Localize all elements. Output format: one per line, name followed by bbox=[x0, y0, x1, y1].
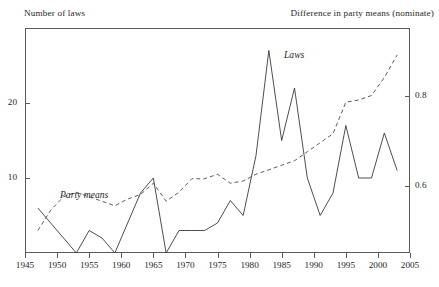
x-tick-mark bbox=[121, 253, 122, 258]
series-plot-area bbox=[25, 28, 410, 253]
x-tick-label: 2005 bbox=[397, 260, 423, 270]
x-tick-label: 1955 bbox=[76, 260, 102, 270]
x-tick-mark bbox=[314, 253, 315, 258]
x-tick-mark bbox=[250, 253, 251, 258]
x-tick-label: 1990 bbox=[301, 260, 327, 270]
x-tick-mark bbox=[153, 253, 154, 258]
y-left-tick-label: 20 bbox=[0, 97, 17, 107]
x-tick-label: 1995 bbox=[333, 260, 359, 270]
laws-series-line bbox=[38, 51, 397, 254]
x-tick-mark bbox=[89, 253, 90, 258]
y-left-tick-mark bbox=[25, 178, 30, 179]
y-left-tick-label: 10 bbox=[0, 172, 17, 182]
y-right-tick-label: 0.8 bbox=[415, 90, 426, 100]
x-tick-label: 1970 bbox=[172, 260, 198, 270]
x-tick-label: 2000 bbox=[365, 260, 391, 270]
x-tick-label: 1950 bbox=[44, 260, 70, 270]
y-left-tick-mark bbox=[25, 103, 30, 104]
x-tick-label: 1975 bbox=[205, 260, 231, 270]
party-means-series-label: Party means bbox=[60, 189, 108, 200]
x-tick-label: 1965 bbox=[140, 260, 166, 270]
x-tick-mark bbox=[410, 253, 411, 258]
chart-figure: Number of laws Difference in party means… bbox=[0, 0, 439, 287]
right-axis-title: Difference in party means (nominate) bbox=[291, 8, 435, 18]
x-tick-mark bbox=[282, 253, 283, 258]
y-right-tick-mark bbox=[405, 186, 410, 187]
x-tick-label: 1960 bbox=[108, 260, 134, 270]
x-tick-label: 1945 bbox=[12, 260, 38, 270]
x-tick-label: 1980 bbox=[237, 260, 263, 270]
x-tick-mark bbox=[185, 253, 186, 258]
left-axis-title: Number of laws bbox=[24, 8, 85, 18]
laws-series-label: Laws bbox=[284, 49, 304, 60]
x-tick-mark bbox=[57, 253, 58, 258]
party-means-series-line bbox=[38, 55, 397, 231]
y-right-tick-label: 0.6 bbox=[415, 180, 426, 190]
x-tick-mark bbox=[25, 253, 26, 258]
y-right-tick-mark bbox=[405, 96, 410, 97]
x-tick-label: 1985 bbox=[269, 260, 295, 270]
x-tick-mark bbox=[378, 253, 379, 258]
x-tick-mark bbox=[346, 253, 347, 258]
x-tick-mark bbox=[218, 253, 219, 258]
